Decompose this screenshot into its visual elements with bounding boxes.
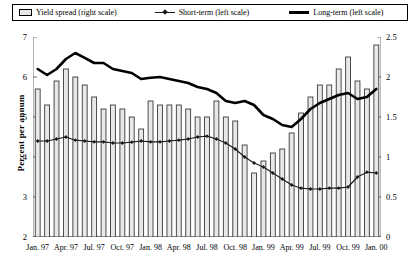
legend-label-short-term: Short-term (left scale) xyxy=(179,8,250,18)
legend-item-short-term: Short-term (left scale) xyxy=(155,8,250,18)
y-axis-tick-right: 1 xyxy=(386,153,412,161)
legend-label-yield-spread: Yield spread (right scale) xyxy=(36,8,117,18)
plot-svg xyxy=(33,37,381,237)
legend-item-long-term: Long-term (left scale) xyxy=(289,8,383,18)
thick-line-swatch-icon xyxy=(289,9,309,16)
x-axis-tick: Jan. 00 xyxy=(353,243,399,252)
bar-swatch-icon xyxy=(19,9,32,16)
y-axis-tick-left: 6 xyxy=(3,73,27,81)
y-axis-tick-left: 5 xyxy=(3,113,27,121)
y-axis-tick-left: 3 xyxy=(3,193,27,201)
y-axis-tick-left: 2 xyxy=(3,233,27,241)
y-axis-tick-right: 2 xyxy=(386,73,412,81)
legend-item-yield-spread: Yield spread (right scale) xyxy=(19,8,117,18)
y-axis-tick-left: 7 xyxy=(3,33,27,41)
y-axis-tick-right: 0 xyxy=(386,233,412,241)
y-axis-tick-left: 4 xyxy=(3,153,27,161)
legend-label-long-term: Long-term (left scale) xyxy=(313,8,383,18)
plot-area xyxy=(33,37,381,237)
chart-legend: Yield spread (right scale) Short-term (l… xyxy=(12,4,408,21)
yield-spread-chart: Yield spread (right scale) Short-term (l… xyxy=(0,0,418,263)
line-marker-swatch-icon xyxy=(155,9,175,16)
y-axis-tick-right: 0.5 xyxy=(386,193,412,201)
y-axis-label: Percent per annum xyxy=(16,63,26,203)
y-axis-tick-right: 1.5 xyxy=(386,113,412,121)
y-axis-tick-right: 2.5 xyxy=(386,33,412,41)
